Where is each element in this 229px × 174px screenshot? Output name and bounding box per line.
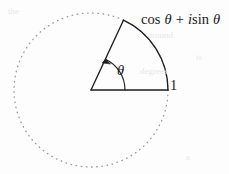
cos-operator: cos	[141, 11, 160, 27]
sin-operator: sin	[192, 11, 209, 27]
theta-symbol-2: θ	[213, 11, 220, 27]
figure-canvas: the around is degrees a cos θ + isin θ 1…	[0, 0, 229, 174]
radius-length-label: 1	[170, 78, 177, 93]
plus-operator: +	[176, 11, 184, 27]
point-label-euler-formula: cos θ + isin θ	[141, 12, 220, 27]
angle-theta-label: θ	[117, 63, 124, 78]
radius-angled	[91, 20, 123, 90]
theta-symbol-1: θ	[164, 11, 171, 27]
sector-arc	[123, 20, 168, 90]
